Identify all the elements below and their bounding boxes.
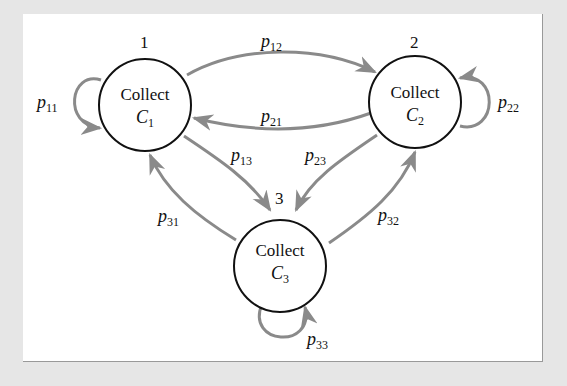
edge-p11 [75, 79, 101, 128]
node-1-label: Collect C1 [100, 84, 190, 134]
edge-p32 [329, 152, 415, 243]
edge-p22 [460, 77, 489, 127]
edge-p12 [187, 52, 375, 75]
node-1-symbol: C [136, 107, 148, 127]
edge-label-p31: p31 [158, 207, 179, 228]
edge-label-p21: p21 [261, 107, 282, 128]
edge-label-p12: p12 [261, 32, 282, 53]
node-1-title: Collect [100, 84, 190, 106]
node-2-title: Collect [370, 82, 460, 104]
edge-label-p11: p11 [37, 93, 58, 114]
edge-label-p23: p23 [305, 146, 326, 167]
edge-label-p32: p32 [378, 206, 399, 227]
edge-label-p33: p33 [307, 330, 328, 351]
node-1-number: 1 [140, 34, 149, 51]
node-3-number: 3 [275, 190, 284, 207]
edge-label-p13: p13 [231, 146, 252, 167]
edge-label-p22: p22 [498, 93, 519, 114]
node-1-subscript: 1 [148, 116, 154, 130]
node-2-number: 2 [410, 34, 419, 51]
node-3-subscript: 3 [283, 272, 289, 286]
edge-p21 [194, 113, 371, 129]
node-2-label: Collect C2 [370, 82, 460, 132]
node-3-symbol: C [271, 263, 283, 283]
node-2-symbol: C [406, 105, 418, 125]
diagram-canvas [0, 0, 567, 386]
node-3-title: Collect [235, 240, 325, 262]
node-2-subscript: 2 [418, 114, 424, 128]
edge-p13 [184, 136, 270, 210]
node-3-label: Collect C3 [235, 240, 325, 290]
